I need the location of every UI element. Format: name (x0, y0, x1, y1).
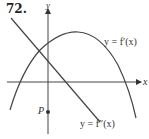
y-axis-label: y (46, 0, 50, 10)
second-derivative-label: y = f″(x) (80, 118, 115, 129)
point-p (46, 110, 50, 114)
graph (0, 0, 149, 139)
point-p-label: P (38, 105, 44, 116)
figure: 72. y x y = f′(x) y = f″(x) P (0, 0, 149, 139)
x-axis-label: x (143, 76, 147, 87)
problem-number: 72. (6, 2, 27, 16)
first-derivative-label: y = f′(x) (104, 36, 137, 47)
